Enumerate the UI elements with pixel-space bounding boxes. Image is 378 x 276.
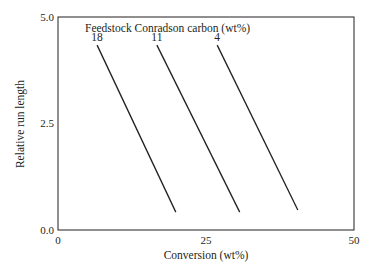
x-tick-25: 25 [201,234,213,246]
y-tick-2-5: 2.5 [40,117,54,129]
annotation-conradson-carbon: Feedstock Conradson carbon (wt%) [85,22,250,35]
x-axis-label: Conversion (wt%) [164,249,249,262]
series-line-4 [217,45,298,210]
y-tick-0: 0.0 [40,224,54,236]
x-tick-50: 50 [349,234,361,246]
plot-frame [58,17,354,230]
series-label-4: 4 [214,31,220,43]
x-tick-0: 0 [55,234,61,246]
series-label-18: 18 [91,31,103,43]
chart: 5.0 2.5 0.0 0 25 50 Conversion (wt%) Rel… [0,0,378,276]
series-line-18 [97,45,176,212]
series-label-11: 11 [151,31,162,43]
series-layer: 18114 [91,31,297,212]
y-axis-label: Relative run length [14,80,27,168]
y-tick-5: 5.0 [40,11,54,23]
series-line-11 [157,45,240,212]
